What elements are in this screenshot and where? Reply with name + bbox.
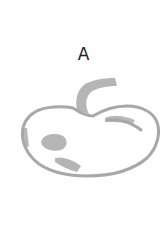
apple-drawing-icon [15, 76, 160, 178]
panel-label: A [0, 44, 167, 64]
